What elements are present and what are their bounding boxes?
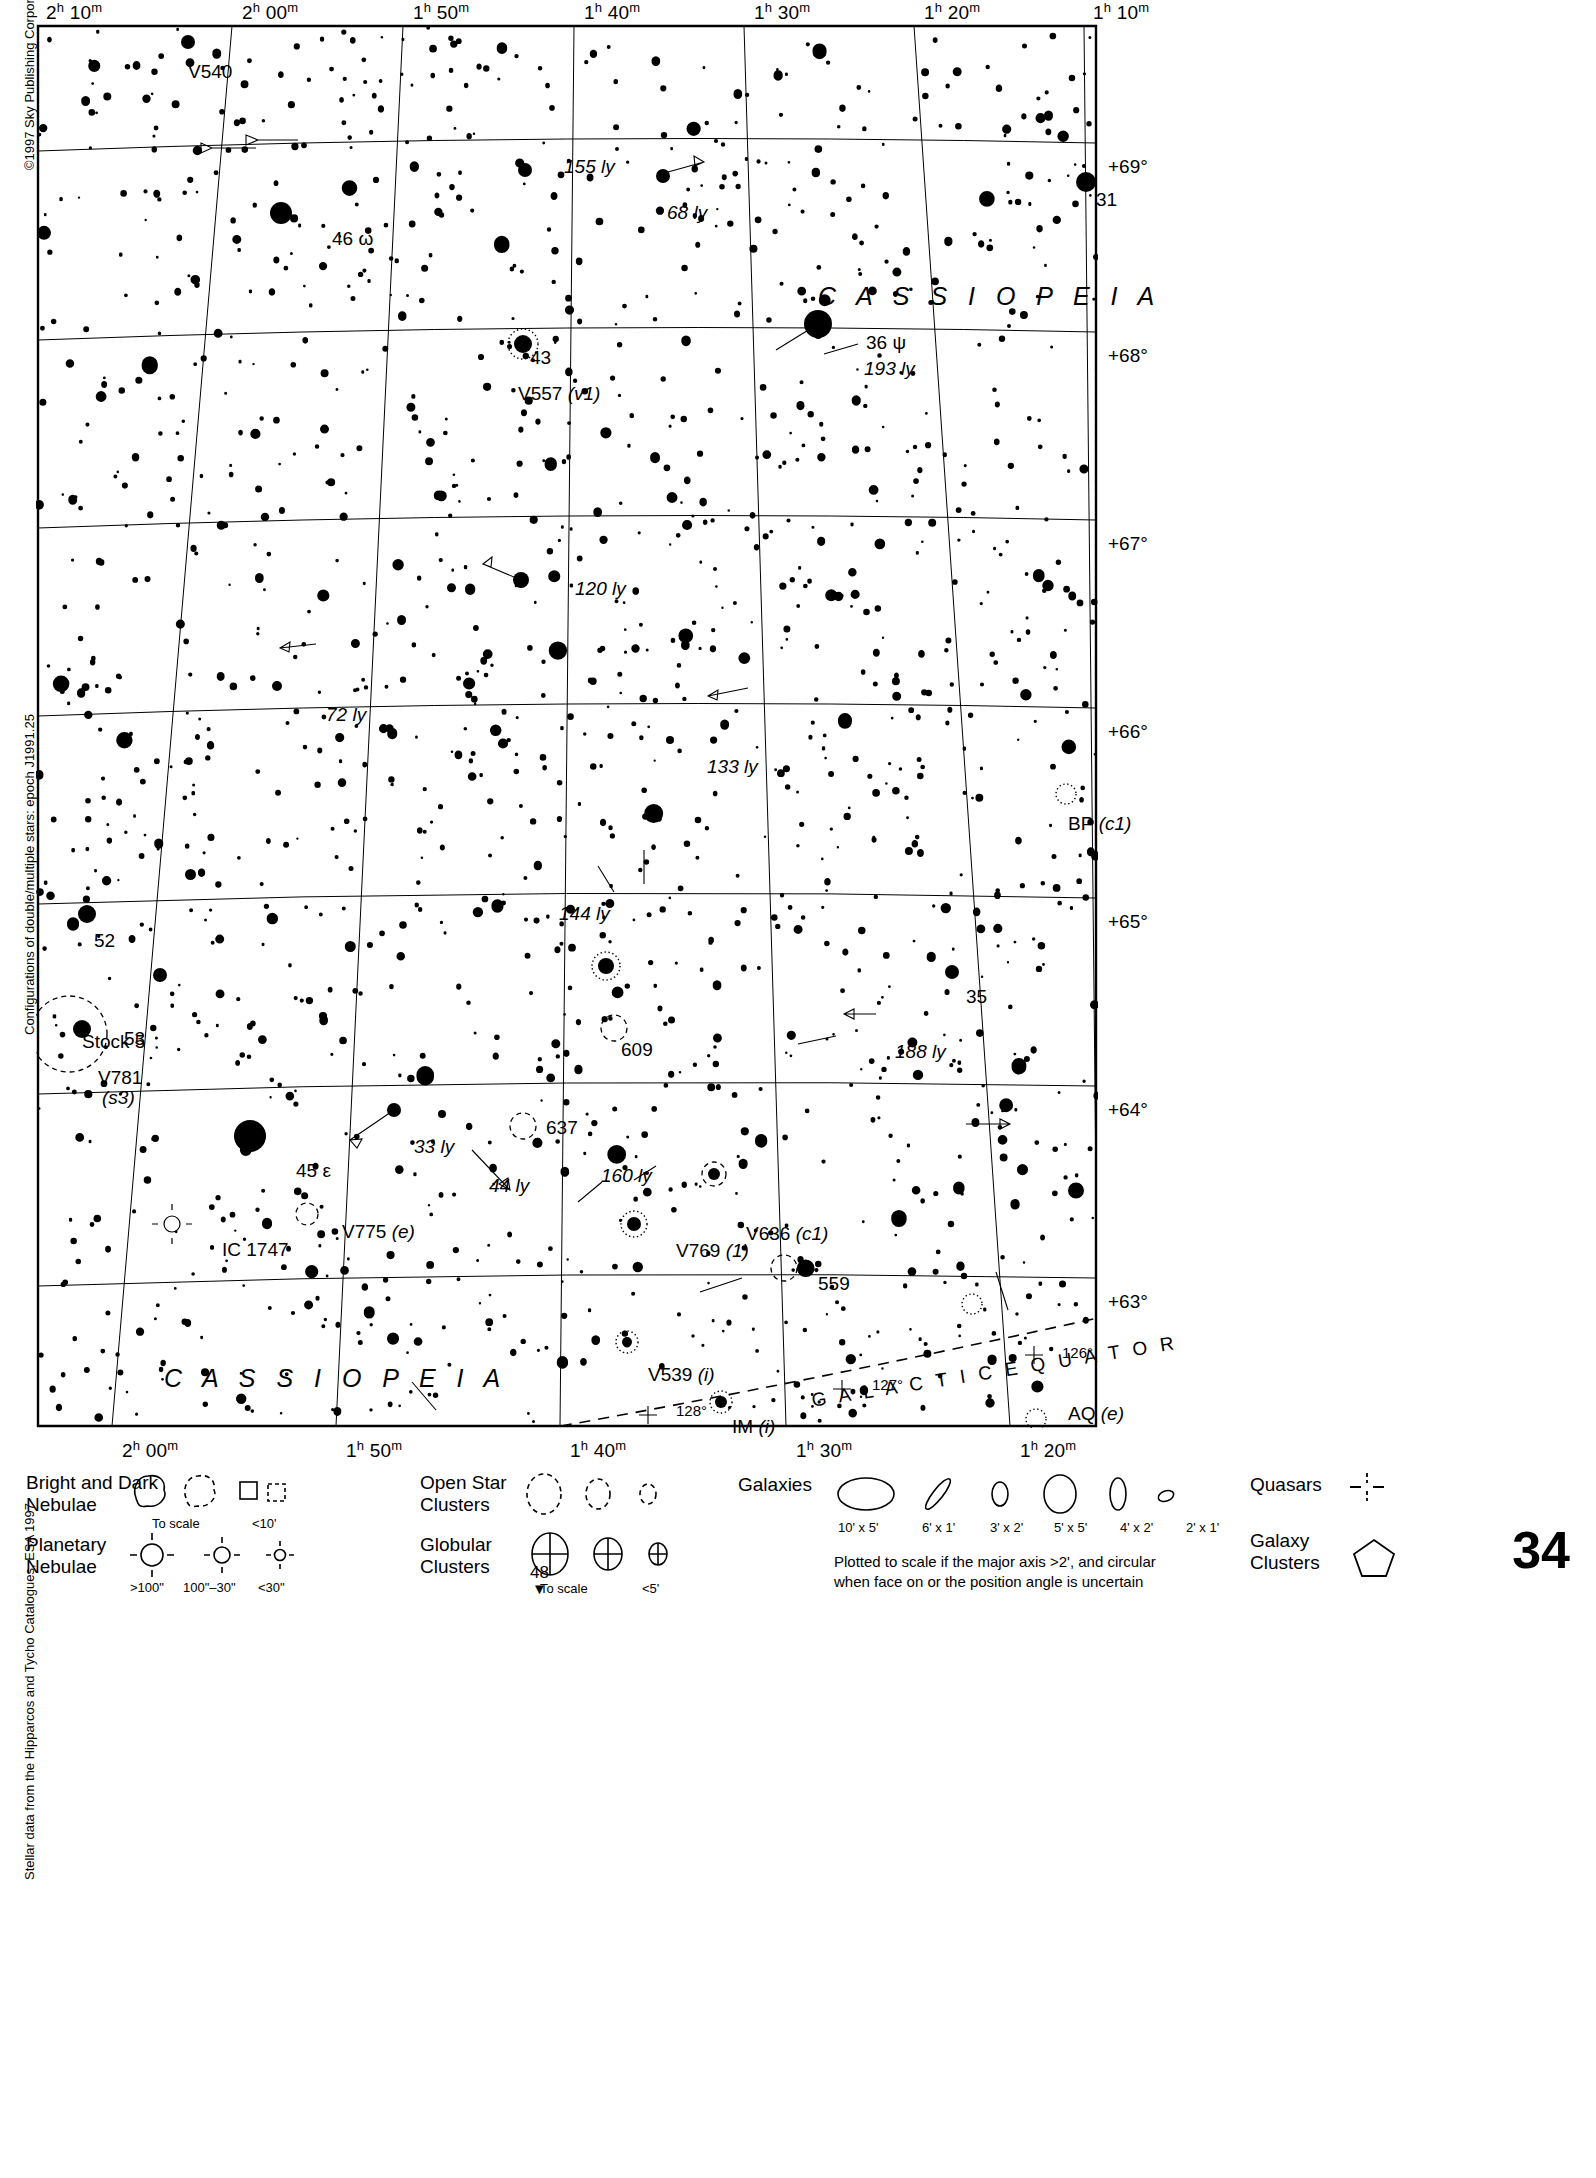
object-label-v539: V539 (i) (648, 1365, 715, 1385)
legend-galaxies-title: Galaxies (738, 1474, 812, 1496)
legend-planetary-title-1: Planetary (26, 1534, 106, 1556)
page-number: 34 (1512, 1520, 1570, 1580)
galaxy-size-label-1: 6' x 1' (922, 1520, 955, 1535)
legend-planetary: Planetary Nebulae (26, 1534, 106, 1578)
object-label-609: 609 (621, 1040, 653, 1060)
object-label-ic1747: IC 1747 (222, 1240, 289, 1260)
object-label-33ly: 33 ly (414, 1137, 454, 1157)
galaxy-symbols (834, 1468, 1178, 1516)
object-label-133ly: 133 ly (707, 757, 758, 777)
star-chart-page: .grid { fill:none; stroke:#000; stroke-w… (0, 0, 1596, 2178)
dec-label-0: +69° (1108, 156, 1148, 178)
quasar-symbol (1348, 1470, 1392, 1504)
ra-label-top-1: 2h 00m (242, 0, 298, 24)
nebula-symbols (128, 1468, 258, 1520)
object-label-aq: AQ (e) (1068, 1404, 1124, 1424)
galactic-tick-2: 126° (1062, 1344, 1093, 1361)
ra-label-top-0: 2h 10m (46, 0, 102, 24)
star-chart-plot: .grid { fill:none; stroke:#000; stroke-w… (36, 24, 1098, 1428)
planetary-nebula-symbols (126, 1532, 326, 1578)
object-label-120ly: 120 ly (575, 579, 626, 599)
ra-label-top-3: 1h 40m (584, 0, 640, 24)
legend-globular-small: <5' (642, 1581, 659, 1596)
legend-open-title-1: Open Star (420, 1472, 507, 1494)
dec-label-2: +67° (1108, 533, 1148, 555)
object-label-36psi: 36 ψ (866, 333, 906, 353)
object-label-559: 559 (818, 1274, 850, 1294)
object-label-bp: BP (c1) (1068, 814, 1131, 834)
object-label-144ly: 144 ly (559, 904, 610, 924)
object-label-188ly: 188 ly (895, 1042, 946, 1062)
ra-label-top-5: 1h 20m (924, 0, 980, 24)
next-page-indicator: 48 ▼ (530, 1564, 549, 1596)
object-label-43: 43 (530, 348, 551, 368)
credit-doubles-text: Configurations of double/multiple stars:… (22, 714, 37, 1035)
object-label-72ly: 72 ly (326, 705, 366, 725)
legend-globular-clusters: Globular Clusters (420, 1534, 492, 1578)
object-label-v636: V636 (c1) (746, 1224, 828, 1244)
object-label-46omega: 46 ω (332, 229, 373, 249)
legend-galaxies-note-2: when face on or the position angle is un… (834, 1572, 1143, 1592)
legend-globular-title-2: Clusters (420, 1556, 492, 1578)
galaxy-size-label-2: 3' x 2' (990, 1520, 1023, 1535)
object-label-68ly: 68 ly (667, 203, 707, 223)
legend-nebulae-small: <10' (252, 1516, 277, 1531)
galaxy-cluster-symbol (1348, 1534, 1404, 1582)
ra-label-top-2: 1h 50m (413, 0, 469, 24)
legend-open-title-2: Clusters (420, 1494, 507, 1516)
legend-quasars-title: Quasars (1250, 1474, 1322, 1496)
legend-planetary-title-2: Nebulae (26, 1556, 106, 1578)
ra-label-bottom-2: 1h 40m (570, 1438, 626, 1462)
legend-nebulae-to-scale: To scale (152, 1516, 200, 1531)
ra-label-bottom-0: 2h 00m (122, 1438, 178, 1462)
object-label-im: IM (i) (732, 1417, 775, 1437)
ra-label-top-4: 1h 30m (754, 0, 810, 24)
galactic-tick-0: 128° (676, 1402, 707, 1419)
constellation-label-1: C A S S I O P E I A (164, 1364, 507, 1393)
object-label-v769: V769 (1) (676, 1241, 749, 1261)
object-label-155ly: 155 ly (564, 157, 615, 177)
dec-label-4: +65° (1108, 911, 1148, 933)
object-label-45epsilon: 45 ε (296, 1161, 331, 1181)
legend-galaxy-clusters-title-2: Clusters (1250, 1552, 1320, 1574)
object-label-v540: V540 (188, 62, 232, 82)
down-arrow-icon: ▼ (530, 1581, 549, 1596)
dec-label-5: +64° (1108, 1099, 1148, 1121)
object-label-52: 52 (94, 931, 115, 951)
legend-galaxy-clusters-title-1: Galaxy (1250, 1530, 1320, 1552)
object-label-53: 53 (124, 1029, 145, 1049)
legend-galaxy-clusters: Galaxy Clusters (1250, 1530, 1320, 1574)
galaxy-size-label-0: 10' x 5' (838, 1520, 878, 1535)
open-cluster-symbols (520, 1470, 680, 1518)
object-label-31: 31 (1096, 190, 1117, 210)
star-field-svg: .grid { fill:none; stroke:#000; stroke-w… (36, 24, 1098, 1428)
ra-label-bottom-4: 1h 20m (1020, 1438, 1076, 1462)
copyright-text: ©1997 Sky Publishing Corporation (22, 0, 37, 170)
galaxy-size-label-4: 4' x 2' (1120, 1520, 1153, 1535)
object-label-44ly: 44 ly (489, 1176, 529, 1196)
object-label-v557: V557 (v1) (518, 384, 600, 404)
constellation-label-0: C A S S I O P E I A (818, 282, 1161, 311)
object-label-v775: V775 (e) (342, 1222, 415, 1242)
object-label-s3: (s3) (102, 1088, 135, 1108)
legend-planetary-size-1: >100" (130, 1580, 164, 1595)
galaxy-size-label-5: 2' x 1' (1186, 1520, 1219, 1535)
object-label-193ly: 193 ly (864, 359, 915, 379)
legend-planetary-size-2: 100"–30" (183, 1580, 236, 1595)
ra-label-bottom-3: 1h 30m (796, 1438, 852, 1462)
dec-label-3: +66° (1108, 721, 1148, 743)
object-label-637: 637 (546, 1118, 578, 1138)
chart-legend: Bright and Dark Nebulae To scale <10' Pl… (0, 1468, 1596, 1608)
legend-galaxies-note-1: Plotted to scale if the major axis >2', … (834, 1552, 1156, 1572)
legend-planetary-size-3: <30" (258, 1580, 285, 1595)
ra-label-top-6: 1h 10m (1093, 0, 1149, 24)
object-label-160ly: 160 ly (601, 1166, 652, 1186)
legend-open-clusters: Open Star Clusters (420, 1472, 507, 1516)
object-label-v781: V781 (98, 1068, 142, 1088)
nebula-small-symbol (266, 1482, 292, 1504)
object-label-35: 35 (966, 987, 987, 1007)
dec-label-6: +63° (1108, 1291, 1148, 1313)
galactic-tick-1: 127° (872, 1376, 903, 1393)
galaxy-size-label-3: 5' x 5' (1054, 1520, 1087, 1535)
ra-label-bottom-1: 1h 50m (346, 1438, 402, 1462)
